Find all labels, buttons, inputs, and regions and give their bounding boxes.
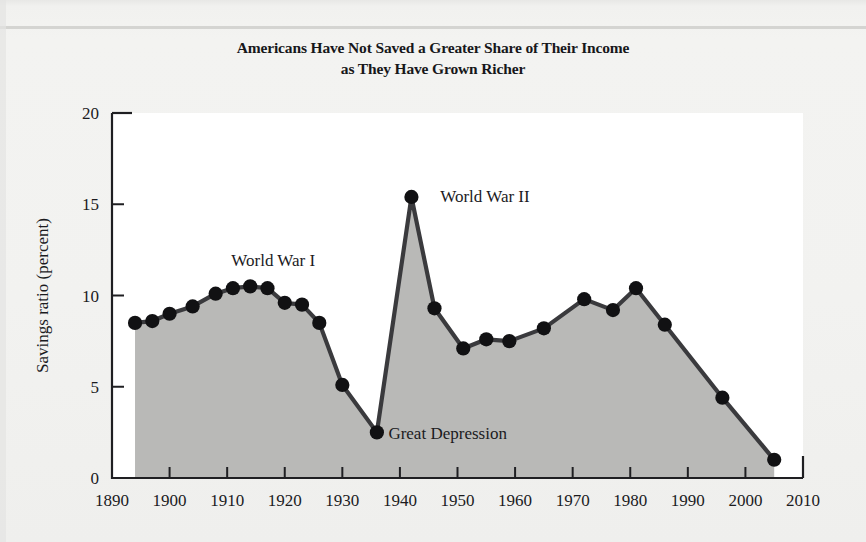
data-point-marker <box>658 318 672 332</box>
x-tick-label: 1980 <box>613 491 647 510</box>
data-point-marker <box>502 334 516 348</box>
x-tick-label: 1910 <box>210 491 244 510</box>
data-point-marker <box>335 378 349 392</box>
chart-card: Americans Have Not Saved a Greater Share… <box>0 29 866 542</box>
data-point-marker <box>260 281 274 295</box>
x-tick-label: 1940 <box>383 491 417 510</box>
x-tick-label: 2000 <box>728 491 762 510</box>
data-point-marker <box>243 279 257 293</box>
data-point-marker <box>629 281 643 295</box>
data-point-marker <box>577 292 591 306</box>
savings-ratio-area-chart: 1890190019101920193019401950196019701980… <box>0 29 866 542</box>
y-axis-title: Savings ratio (percent) <box>33 218 52 373</box>
data-point-marker <box>715 391 729 405</box>
x-tick-label: 2010 <box>786 491 820 510</box>
data-point-marker <box>404 190 418 204</box>
y-tick-label: 15 <box>82 195 99 214</box>
data-point-marker <box>226 281 240 295</box>
data-point-marker <box>479 332 493 346</box>
y-tick-label: 0 <box>91 469 100 488</box>
x-tick-label: 1920 <box>268 491 302 510</box>
data-point-marker <box>278 296 292 310</box>
annotation-text: Great Depression <box>388 424 507 443</box>
y-tick-label: 5 <box>91 378 100 397</box>
data-point-marker <box>145 314 159 328</box>
x-tick-label: 1960 <box>498 491 532 510</box>
x-tick-label: 1950 <box>441 491 475 510</box>
data-point-marker <box>427 301 441 315</box>
x-tick-label: 1930 <box>325 491 359 510</box>
data-point-marker <box>295 298 309 312</box>
x-tick-label: 1890 <box>95 491 129 510</box>
x-tick-label: 1990 <box>671 491 705 510</box>
data-point-marker <box>128 316 142 330</box>
data-point-marker <box>370 425 384 439</box>
x-tick-label: 1970 <box>556 491 590 510</box>
y-tick-label: 20 <box>82 104 99 123</box>
data-point-marker <box>767 453 781 467</box>
data-point-marker <box>537 321 551 335</box>
data-point-marker <box>186 299 200 313</box>
y-tick-label: 10 <box>82 287 99 306</box>
data-point-marker <box>456 341 470 355</box>
data-point-marker <box>312 316 326 330</box>
data-point-marker <box>162 307 176 321</box>
data-point-marker <box>209 287 223 301</box>
figure-root: Americans Have Not Saved a Greater Share… <box>0 0 866 542</box>
annotation-text: World War I <box>231 251 315 270</box>
annotation-text: World War II <box>440 187 530 206</box>
y-axis-title-text: Savings ratio (percent) <box>33 218 52 373</box>
x-tick-label: 1900 <box>153 491 187 510</box>
data-point-marker <box>606 303 620 317</box>
